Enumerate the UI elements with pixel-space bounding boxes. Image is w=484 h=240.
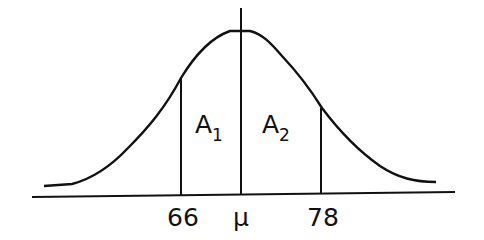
region-a2-name: A — [262, 110, 279, 139]
region-a1-name: A — [195, 110, 212, 139]
x-axis — [32, 192, 455, 197]
tick-label-78: 78 — [307, 205, 339, 230]
tick-label-66: 66 — [167, 205, 199, 230]
region-a2-subscript: 2 — [279, 125, 290, 145]
region-label-a2: A2 — [262, 112, 290, 137]
region-a1-subscript: 1 — [212, 125, 223, 145]
region-label-a1: A1 — [195, 112, 223, 137]
tick-label-mu: μ — [233, 205, 249, 230]
